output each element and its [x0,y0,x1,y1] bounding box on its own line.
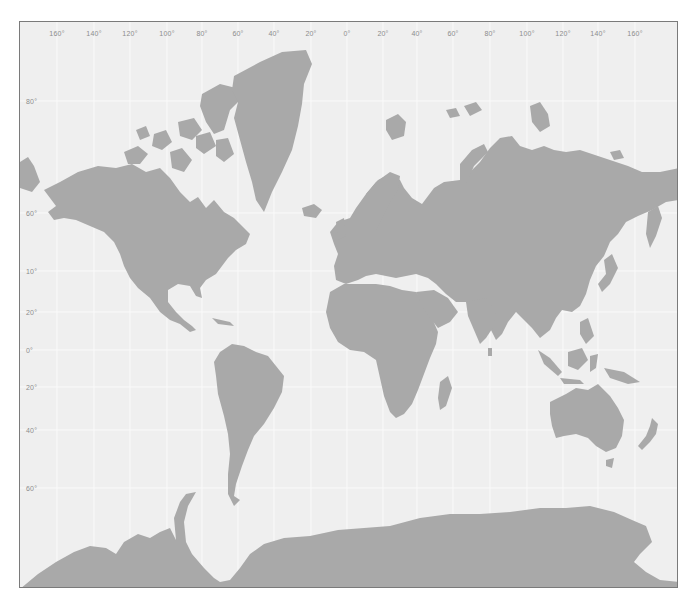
longitude-label: 20° [305,30,316,37]
latitude-label: 60° [26,210,37,217]
land-iceland [302,204,322,218]
longitude-label: 80° [484,30,495,37]
land-chukotka-west [20,157,40,192]
latitude-label: 40° [26,427,37,434]
longitude-label: 40° [268,30,279,37]
land-new-siberian [610,150,624,160]
land-sulawesi [590,354,598,372]
land-sumatra [538,350,562,376]
latitude-label: 20° [26,309,37,316]
longitude-label: 100° [159,30,174,37]
longitude-label: 120° [555,30,570,37]
longitude-label: 20° [377,30,388,37]
longitude-label: 140° [590,30,605,37]
land-svalbard [386,114,406,140]
land-franz-josef [446,102,482,118]
land-cuba [212,318,234,326]
longitude-label: 120° [122,30,137,37]
land-java [560,378,584,384]
land-borneo [568,348,588,370]
latitude-label: 60° [26,485,37,492]
land-new-zealand [638,418,658,450]
latitude-label: 10° [26,268,37,275]
longitude-label: 160° [627,30,642,37]
longitude-label: 60° [232,30,243,37]
land-philippines [580,318,594,344]
land-greenland [232,50,312,212]
land-north-america [44,164,250,332]
landmasses [20,50,678,588]
land-antarctica [20,492,678,588]
map-canvas[interactable] [20,22,678,588]
land-australia [550,384,624,452]
land-sri-lanka [488,348,492,356]
longitude-label: 0° [343,30,350,37]
latitude-label: 0° [26,347,33,354]
longitude-label: 160° [49,30,64,37]
latitude-label: 80° [26,98,37,105]
land-arctic-islands [124,84,240,172]
land-kamchatka [646,206,662,248]
land-madagascar [438,376,452,410]
land-severnaya-zemlya [530,102,550,132]
longitude-label: 40° [411,30,422,37]
longitude-label: 60° [447,30,458,37]
longitude-label: 80° [196,30,207,37]
longitude-label: 140° [86,30,101,37]
longitude-label: 100° [519,30,534,37]
world-map[interactable]: 160° 140° 120° 100° 80° 60° 40° 20° 0° 2… [19,21,678,588]
latitude-label: 20° [26,384,37,391]
land-tasmania [606,458,614,468]
